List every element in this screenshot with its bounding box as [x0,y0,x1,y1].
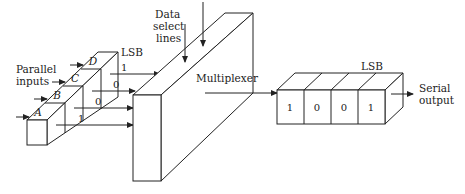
shift-register: 1 0 0 1 LSB Serial output [277,60,455,124]
output-bit-d: 1 [121,62,127,73]
select-label-line2: select [153,20,185,32]
shift-bit-3: 0 [341,102,347,113]
cell-d-label: D [88,55,98,67]
cell-b-label: B [52,89,61,101]
output-bit-b: 0 [95,96,101,107]
parallel-lsb-label: LSB [121,46,143,58]
output-bit-c: 0 [113,79,119,90]
mux-front-face [133,95,161,181]
parallel-to-serial-diagram: A B C D Parallel inputs LSB 1 0 0 1 Mult… [0,0,465,194]
register-front-face [27,120,47,145]
shift-bit-4: 1 [368,102,374,113]
mux-label: Multiplexer [196,72,259,84]
output-bit-a: 1 [78,113,84,124]
serial-output-label-line1: Serial [419,82,451,94]
parallel-inputs-label-line1: Parallel [16,63,57,75]
shift-bit-1: 1 [287,102,293,113]
serial-output-label-line2: output [419,94,455,106]
cell-c-label: C [71,72,79,84]
shift-lsb-label: LSB [361,60,383,72]
select-label-line1: Data [155,8,180,20]
parallel-register: A B C D Parallel inputs LSB [16,46,143,145]
shift-bit-2: 0 [314,102,320,113]
multiplexer: Multiplexer Data select lines [133,2,277,181]
select-label-line3: lines [156,32,181,44]
parallel-inputs-label-line2: inputs [16,75,49,87]
cell-a-label: A [33,106,42,118]
